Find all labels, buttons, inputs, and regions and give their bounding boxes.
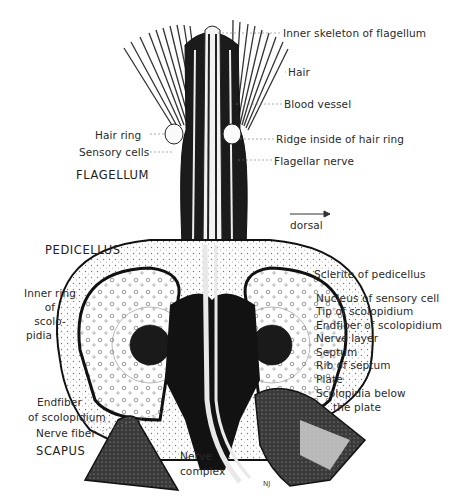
label-rib-of-septum: Rib of septum (316, 359, 391, 371)
label-hair: Hair (288, 66, 310, 78)
label-sclerite-pedicellus: Sclerite of pedicellus (314, 268, 426, 280)
label-nerve-layer: Nerve layer (316, 332, 378, 344)
label-tip-scolopidium: Tip of scolopidium (316, 305, 413, 317)
label-flagellum: FLAGELLUM (76, 169, 149, 181)
label-scapus: SCAPUS (36, 445, 85, 457)
label-inner-ring-pidia: pidia (26, 329, 52, 341)
label-of-scolopidium-left: of scolopidium (28, 411, 106, 423)
label-pedicellus: PEDICELLUS (45, 244, 121, 256)
label-nucleus-sensory-cell: Nucleus of sensory cell (316, 292, 439, 304)
label-septum: Septum (316, 346, 357, 358)
label-plate: Plate (316, 373, 343, 385)
label-endfiber-scolopidium-right: Endfiber of scolopidium (316, 319, 442, 331)
hairs-right (232, 20, 288, 130)
label-inner-ring-of: of (22, 301, 78, 313)
label-hair-ring: Hair ring (95, 129, 141, 141)
label-flagellar-nerve: Flagellar nerve (274, 155, 354, 167)
label-dorsal: dorsal (290, 219, 323, 231)
label-inner-ring-scolo: scolo- (22, 315, 78, 327)
artist-signature: NJ (263, 478, 271, 490)
label-nerve-complex-1: Nerve (180, 450, 212, 462)
label-endfiber-left: Endfiber (37, 396, 82, 408)
right-arrow-icon (290, 211, 330, 217)
label-sensory-cells: Sensory cells (79, 146, 149, 158)
label-nerve-complex-2: complex (180, 465, 225, 477)
label-scolopidia-below: Scolopidia below (316, 387, 406, 399)
label-the-plate: the plate (333, 401, 381, 413)
label-ridge-hair-ring: Ridge inside of hair ring (276, 133, 404, 145)
antenna-diagram: Inner skeleton of flagellum Hair Blood v… (0, 0, 464, 502)
label-blood-vessel: Blood vessel (284, 98, 351, 110)
label-inner-ring: Inner ring (22, 287, 78, 299)
label-nerve-fiber: Nerve fiber (36, 427, 96, 439)
label-inner-skeleton: Inner skeleton of flagellum (283, 27, 426, 39)
